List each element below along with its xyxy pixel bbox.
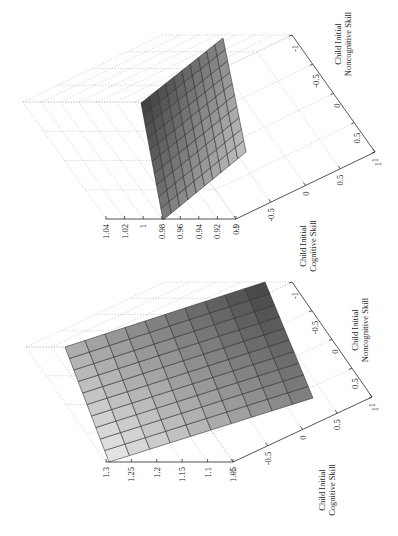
svg-text:1.25: 1.25 — [126, 467, 136, 482]
svg-text:1.02: 1.02 — [120, 224, 130, 239]
svg-text:-0.5: -0.5 — [311, 74, 321, 87]
svg-text:-0.5: -0.5 — [266, 208, 276, 221]
svg-text:1.04: 1.04 — [101, 223, 111, 239]
svg-text:-0.5: -0.5 — [310, 321, 320, 334]
svg-text:0: 0 — [301, 192, 311, 196]
svg-text:0: 0 — [330, 350, 340, 354]
svg-text:1: 1 — [367, 403, 377, 407]
svg-text:1: 1 — [370, 407, 380, 411]
svg-text:-1: -1 — [290, 292, 300, 299]
svg-text:0.94: 0.94 — [194, 223, 204, 239]
svg-text:0.5: 0.5 — [332, 419, 342, 430]
bottom-surface-plot: 1.31.251.21.151.11.05 -1-0.500.51 Child … — [26, 282, 380, 516]
svg-text:1.15: 1.15 — [177, 467, 187, 482]
top-noncognitive-axis-label-2: Noncognitive Skill — [343, 11, 353, 76]
svg-text:0.5: 0.5 — [335, 175, 345, 186]
svg-text:0: 0 — [298, 436, 308, 440]
top-noncognitive-axis-label-1: Child Initial — [333, 23, 343, 65]
bottom-noncognitive-axis-label-2: Noncognitive Skill — [360, 297, 370, 362]
top-surface — [141, 38, 246, 220]
top-cognitive-axis-label-2: Cognitive Skill — [308, 220, 318, 272]
top-cognitive-axis: -1-0.500.51 Child Initial Cognitive Skil… — [231, 149, 380, 272]
svg-text:0.5: 0.5 — [350, 378, 360, 389]
svg-text:0.92: 0.92 — [212, 224, 222, 239]
svg-text:-1: -1 — [290, 45, 300, 52]
top-surface-plot: 1.041.0210.980.960.940.920.9 -1-0.500.51… — [23, 11, 383, 272]
figure: 1.041.0210.980.960.940.920.9 -1-0.500.51… — [0, 0, 398, 536]
svg-text:1.3: 1.3 — [101, 467, 111, 478]
bottom-noncognitive-axis-label-1: Child Initial — [350, 309, 360, 351]
svg-text:0.98: 0.98 — [157, 224, 167, 239]
svg-text:1: 1 — [138, 224, 148, 228]
bottom-cognitive-axis-label-1: Child Initial — [317, 469, 327, 511]
svg-text:1: 1 — [370, 158, 380, 162]
top-cognitive-axis-label-1: Child Initial — [298, 225, 308, 267]
svg-text:0.5: 0.5 — [352, 133, 362, 144]
svg-text:0.96: 0.96 — [175, 224, 185, 239]
svg-text:1: 1 — [373, 162, 383, 166]
bottom-z-axis: 1.31.251.21.151.11.05 — [101, 459, 238, 482]
bottom-surface — [65, 282, 313, 462]
svg-text:-0.5: -0.5 — [263, 452, 273, 465]
bottom-cognitive-axis-label-2: Cognitive Skill — [327, 464, 337, 516]
svg-text:0: 0 — [332, 104, 342, 108]
svg-text:1.2: 1.2 — [152, 467, 162, 478]
top-z-axis: 1.041.0210.980.960.940.920.9 — [101, 216, 241, 239]
svg-text:-1: -1 — [231, 225, 241, 232]
svg-text:-1: -1 — [228, 468, 238, 475]
svg-text:1.1: 1.1 — [203, 467, 213, 478]
top-noncognitive-axis: 10.50-0.5-1 Child Initial Noncognitive S… — [289, 11, 383, 166]
